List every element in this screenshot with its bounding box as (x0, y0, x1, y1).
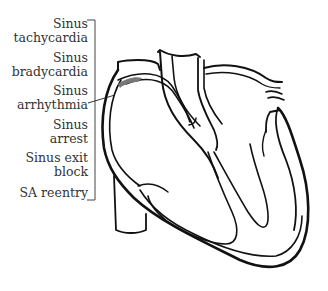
septum-left (214, 144, 268, 227)
left-atrium-wall (266, 108, 296, 230)
left-atrium-top (204, 65, 282, 82)
pulmonary-artery-wall (198, 58, 217, 150)
heart-diagram (0, 0, 328, 291)
tricuspid-valve (138, 184, 168, 192)
septum-right (148, 152, 237, 244)
right-atrium-inner-wall-2 (126, 80, 194, 128)
mitral-valve (263, 130, 266, 156)
right-atrium-inner-wall (110, 80, 140, 186)
right-ventricle-wall (140, 190, 302, 256)
superior-vena-cava (118, 60, 160, 70)
heart-illustration (103, 50, 309, 267)
label-bracket (87, 20, 95, 200)
pulmonary-vein (266, 91, 284, 100)
aorta-left-wall (160, 52, 218, 178)
aorta-right-wall (172, 56, 200, 126)
heart-outer-wall (103, 70, 309, 267)
sa-node-leader-line (88, 95, 115, 103)
aorta-top (158, 50, 200, 57)
